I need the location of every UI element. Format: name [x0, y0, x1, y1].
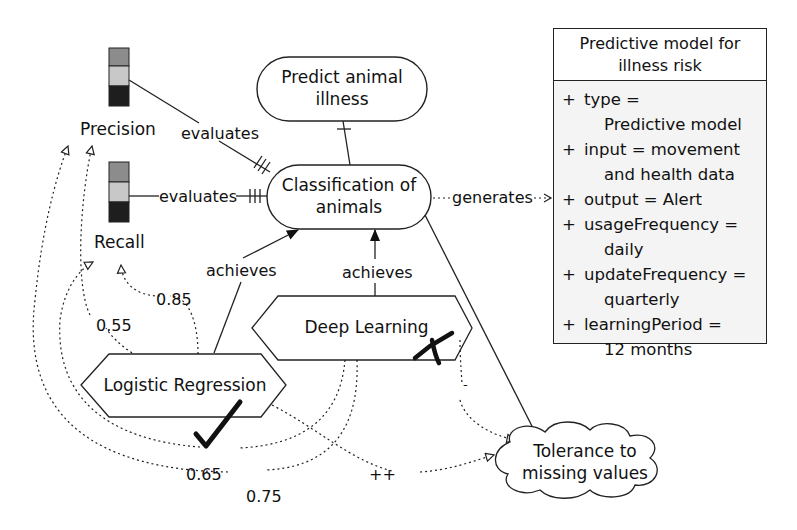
evaluates-precision-label: evaluates: [181, 125, 259, 143]
evaluates-recall-label: evaluates: [159, 188, 237, 206]
weight-lr-recall: 0.85: [156, 291, 192, 309]
plus-icon: +: [562, 212, 576, 237]
class-title-line2: illness risk: [554, 55, 766, 77]
softgoal-line2: missing values: [510, 462, 660, 484]
weight-dl-precision: 0.75: [246, 488, 282, 506]
predictive-model-class[interactable]: Predictive model for illness risk + type…: [553, 28, 767, 344]
contribution-minus-label: -: [463, 376, 468, 394]
class-attributes: + type = Predictive model + input = move…: [554, 81, 766, 362]
class-attribute: + updateFrequency = quarterly: [562, 262, 760, 312]
goal-line1: Predict animal: [257, 66, 427, 88]
class-attribute: + input = movement and health data: [562, 137, 760, 187]
plus-icon: +: [562, 312, 576, 337]
class-attribute: + type = Predictive model: [562, 87, 760, 137]
achieves-dl-label: achieves: [342, 264, 413, 282]
deep-learning-node[interactable]: Deep Learning: [278, 318, 455, 336]
achieves-lr-label: achieves: [206, 262, 277, 280]
class-attribute: + output = Alert: [562, 187, 760, 212]
class-title-line1: Predictive model for: [554, 33, 766, 55]
softgoal-line1: Tolerance to: [510, 440, 660, 462]
softgoal-node[interactable]: Tolerance to missing values: [510, 440, 660, 484]
refinement-edge: [337, 121, 351, 165]
weight-dl-recall: 0.65: [186, 466, 222, 484]
recall-label: Recall: [94, 233, 145, 251]
class-attribute: + usageFrequency = daily: [562, 212, 760, 262]
recall-indicator-icon: [109, 162, 129, 222]
precision-indicator-icon: [109, 48, 129, 106]
goal-line2: illness: [257, 88, 427, 110]
task-line1: Classification of: [267, 174, 431, 196]
generates-label: generates: [452, 189, 533, 207]
class-header: Predictive model for illness risk: [554, 29, 766, 81]
plus-icon: +: [562, 137, 576, 162]
contribution-plus-plus-label: ++: [369, 466, 396, 484]
task-line2: animals: [267, 196, 431, 218]
plus-icon: +: [562, 187, 576, 212]
goal-node[interactable]: Predict animal illness: [257, 66, 427, 110]
precision-label: Precision: [80, 120, 156, 138]
class-attribute: + learningPeriod = 12 months: [562, 312, 760, 362]
task-node[interactable]: Classification of animals: [267, 174, 431, 218]
weight-lr-precision: 0.55: [96, 317, 132, 335]
logistic-regression-node[interactable]: Logistic Regression: [100, 376, 270, 394]
plus-icon: +: [562, 87, 576, 112]
plus-icon: +: [562, 262, 576, 287]
